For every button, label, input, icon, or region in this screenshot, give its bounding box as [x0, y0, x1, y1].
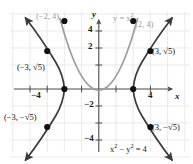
x-tick-label-4: 4 [148, 91, 153, 100]
vertex-right [130, 86, 136, 92]
y-axis-label: y [92, 10, 96, 19]
point-label-neg3-sqrt5: (−3, √5) [17, 63, 45, 72]
equation-parabola-text: y = x [113, 13, 131, 23]
equation-parabola: y = x2 [113, 14, 134, 23]
x-axis-label: x [175, 92, 180, 101]
axis-y [95, 20, 102, 152]
equation-parabola-exponent: 2 [131, 12, 134, 18]
y-tick-label-2: 2 [88, 42, 93, 51]
point-label-3-negsqrt5: (3, −√5) [152, 123, 180, 132]
equation-hyperbola: x2 − y2 = 4 [110, 145, 147, 154]
x-tick-label-neg4: −4 [31, 91, 41, 100]
y-tick-label-neg2: −2 [84, 100, 94, 109]
vertex-left [61, 86, 67, 92]
y-tick-label-4: 4 [88, 25, 93, 34]
point-neg3-sqrt5 [44, 48, 50, 54]
point-label-2-4: (2, 4) [135, 20, 153, 29]
curve-hyperbola-left-upper [26, 18, 65, 89]
point-label-3-sqrt5: (3, √5) [152, 47, 175, 56]
equation-hyperbola-y: − y [117, 144, 130, 154]
point-neg2-4 [61, 18, 67, 24]
figure-canvas: −4 4 4 2 −2 −4 x y y = x2 x2 − y2 = 4 (−… [0, 0, 193, 164]
equation-hyperbola-rhs: = 4 [134, 144, 147, 154]
point-label-neg3-negsqrt5: (−3, −√5) [4, 113, 37, 122]
point-label-neg2-4: (−2, 4) [36, 12, 59, 21]
point-neg3-negsqrt5 [44, 124, 50, 130]
graph-svg [0, 0, 193, 164]
y-tick-label-neg4: −4 [84, 134, 94, 143]
